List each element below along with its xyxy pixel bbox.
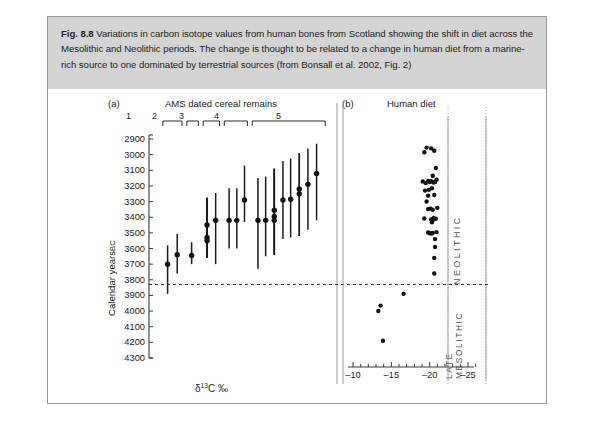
scatter-point [422,216,426,220]
scatter-point [429,217,433,221]
y-tick-label: 3600 [103,244,145,254]
scatter-point [432,193,436,197]
figure-number: Fig. 8.8 [61,28,94,39]
group-brackets [163,121,325,126]
y-tick-label: 4300 [103,353,145,363]
y-tick-label: 3900 [103,290,145,300]
y-tick-label: 3200 [103,181,145,191]
figure-caption-text: Fig. 8.8 Variations in carbon isotope va… [61,26,534,72]
scatter-point [432,149,436,153]
scatter-point [426,230,430,234]
scatter-series [376,145,439,343]
scatter-point [427,188,431,192]
y-tick-label: 3000 [103,150,145,160]
scatter-point [432,271,436,275]
scatter-point [433,237,437,241]
x-axis-ticks [353,362,476,367]
scatter-point [378,303,382,307]
x-tick-label: –25 [452,370,484,380]
axes-group [149,103,488,384]
scatter-point [435,206,439,210]
scatter-point [432,256,436,260]
scatter-point [421,179,425,183]
scatter-point [434,166,438,170]
x-tick-label: –10 [337,370,369,380]
scatter-point [434,230,438,234]
scatter-point [424,199,428,203]
y-tick-label: 3100 [103,165,145,175]
scatter-point [423,188,427,192]
scatter-point [426,193,430,197]
scatter-point [426,207,430,211]
y-tick-label: 3400 [103,212,145,222]
figure-container: Fig. 8.8 Variations in carbon isotope va… [47,16,547,404]
scatter-point [401,292,405,296]
y-tick-label: 3800 [103,275,145,285]
figure-caption-band: Fig. 8.8 Variations in carbon isotope va… [48,17,546,89]
plot-area: (a) AMS dated cereal remains (b) Human d… [48,89,546,403]
y-tick-label: 4100 [103,322,145,332]
y-tick-label: 3500 [103,228,145,238]
scatter-point [431,174,435,178]
errorbar-series [165,144,319,294]
scatter-point [433,245,437,249]
figure-caption-body: Variations in carbon isotope values from… [61,28,533,70]
y-tick-label: 2900 [103,134,145,144]
scatter-point [381,339,385,343]
x-tick-label: –15 [375,370,407,380]
x-tick-label: –20 [414,370,446,380]
y-tick-label: 3700 [103,259,145,269]
y-axis-ticks [149,139,153,358]
scatter-point [422,150,426,154]
scatter-point [424,145,428,149]
y-tick-label: 4200 [103,337,145,347]
y-tick-label: 4000 [103,306,145,316]
scatter-point [376,309,380,313]
y-tick-label: 3300 [103,197,145,207]
